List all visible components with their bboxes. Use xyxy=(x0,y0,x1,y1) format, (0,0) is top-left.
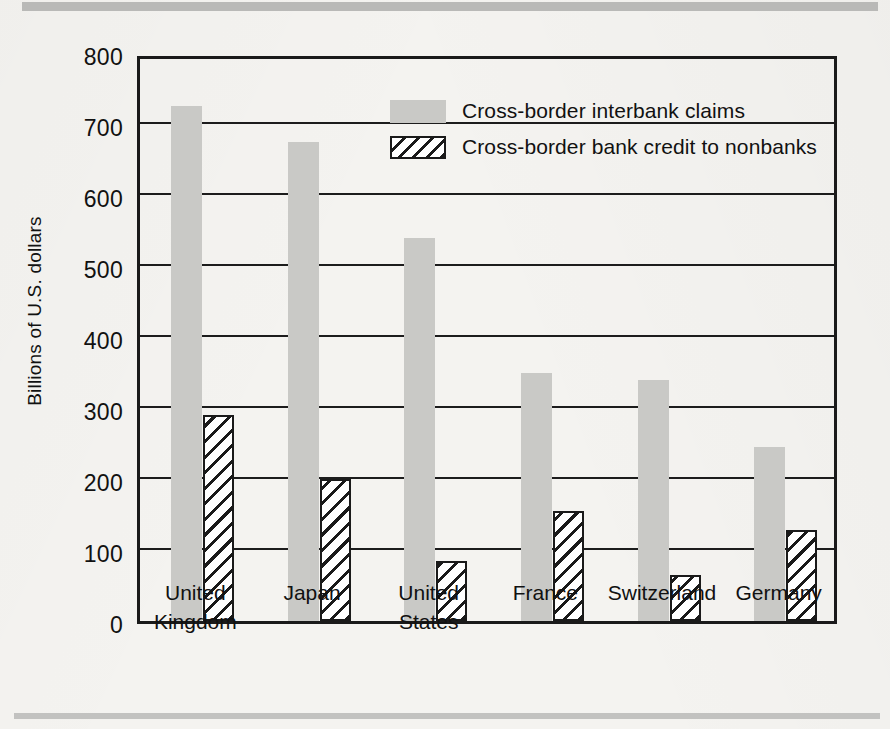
y-tick-label-400: 400 xyxy=(43,328,123,355)
bar-group xyxy=(288,59,351,621)
bar xyxy=(288,142,319,621)
y-tick-label-200: 200 xyxy=(43,470,123,497)
bar xyxy=(786,530,817,621)
gridline-500 xyxy=(140,264,834,266)
y-axis-title: Billions of U.S. dollars xyxy=(24,161,46,461)
y-tick-label-100: 100 xyxy=(43,541,123,568)
y-tick-label-0: 0 xyxy=(43,612,123,639)
legend-label: Cross-border interbank claims xyxy=(462,99,745,123)
gridline-200 xyxy=(140,477,834,479)
gridline-300 xyxy=(140,406,834,408)
y-axis-tick-labels: 8007006005004003002001000 xyxy=(37,56,123,624)
legend-swatch-solid xyxy=(390,100,446,123)
legend-swatch-hatched xyxy=(390,136,446,159)
chart-page: 8007006005004003002001000 Billions of U.… xyxy=(0,0,890,729)
y-tick-label-500: 500 xyxy=(43,257,123,284)
y-tick-label-800: 800 xyxy=(43,44,123,71)
y-tick-label-600: 600 xyxy=(43,186,123,213)
bar-group xyxy=(171,59,234,621)
gridline-100 xyxy=(140,548,834,550)
legend-label: Cross-border bank credit to nonbanks xyxy=(462,135,817,159)
bar xyxy=(404,238,435,621)
gridline-600 xyxy=(140,193,834,195)
y-tick-label-700: 700 xyxy=(43,115,123,142)
legend-item: Cross-border interbank claims xyxy=(390,93,830,129)
y-tick-label-300: 300 xyxy=(43,399,123,426)
chart-legend: Cross-border interbank claimsCross-borde… xyxy=(390,93,830,165)
grouped-bar-chart: 8007006005004003002001000 Billions of U.… xyxy=(0,0,890,729)
gridline-400 xyxy=(140,335,834,337)
bar xyxy=(171,106,202,621)
legend-item: Cross-border bank credit to nonbanks xyxy=(390,129,830,165)
x-axis-label-germany: Germany xyxy=(702,578,855,607)
